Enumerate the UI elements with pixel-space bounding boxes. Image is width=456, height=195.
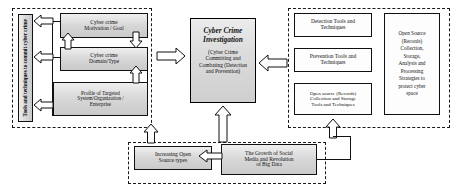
connector-opensource-elbow (333, 136, 351, 137)
box-prevention-tools-label: Prevention Tools and Techniques (310, 54, 357, 66)
connector-bigdata-vertical (350, 136, 351, 160)
left-region-right-line-top (147, 25, 148, 38)
arrow-left-out-bottom (34, 99, 54, 111)
box-cyber-crime-motivation-label: Cyber crime Motivation / Goal (84, 20, 123, 32)
box-profile-targeted-system-label: Profile of Targeted System/Organization … (77, 91, 123, 108)
box-profile-targeted-system[interactable]: Profile of Targeted System/Organization … (53, 82, 148, 116)
arrow-left-to-center (156, 48, 186, 64)
box-open-source-strategies-label: Open Source (Records) Collection, Storag… (398, 30, 425, 98)
arrow-bigdata-to-increasing (199, 150, 223, 162)
box-social-media-big-data[interactable]: The Growth of Social Media and Revolutio… (221, 144, 317, 175)
center-subtitle: (Cyber Crime Committing and Combating (D… (199, 49, 247, 75)
arrow-left-out-mid (34, 51, 54, 63)
box-detection-tools-label: Detection Tools and Techniques (311, 19, 355, 31)
arrow-right-to-center (258, 55, 288, 71)
box-open-source-strategies[interactable]: Open Source (Records) Collection, Storag… (384, 13, 440, 115)
box-prevention-tools[interactable]: Prevention Tools and Techniques (294, 48, 372, 72)
box-social-media-big-data-label: The Growth of Social Media and Revolutio… (244, 151, 293, 169)
arrow-bigdata-to-center-up (215, 106, 231, 143)
arrow-motivation-to-domain-down (130, 31, 142, 49)
left-region-right-line-bottom (147, 60, 148, 82)
cyber-crime-investigation-diagram: Tools and techniques to commit cyber cri… (0, 0, 456, 195)
left-vertical-label-text: Tools and techniques to commit cyber cri… (23, 19, 29, 116)
box-increasing-open-source-types-label: Increasing Open Source types (155, 152, 191, 164)
arrow-domain-to-motivation-up (62, 33, 74, 50)
box-cyber-crime-investigation[interactable]: Cyber Crime Investigation (Cyber Crime C… (190, 18, 256, 103)
arrow-left-out-top (34, 15, 54, 27)
box-open-source-collection-storage-label: Open source (Records) Collection and Sto… (310, 91, 356, 107)
box-detection-tools[interactable]: Detection Tools and Techniques (294, 13, 372, 37)
left-vertical-label: Tools and techniques to commit cyber cri… (18, 14, 33, 122)
arrow-profile-to-domain-up (130, 66, 142, 84)
connector-bigdata-right-horizontal (317, 159, 351, 160)
box-open-source-collection-storage[interactable]: Open source (Records) Collection and Sto… (294, 83, 372, 115)
center-title: Cyber Crime Investigation (203, 26, 243, 45)
arrow-increasing-to-center-up (144, 124, 158, 144)
box-cyber-crime-domain-label: Cyber crime Domain/Type (89, 53, 119, 65)
